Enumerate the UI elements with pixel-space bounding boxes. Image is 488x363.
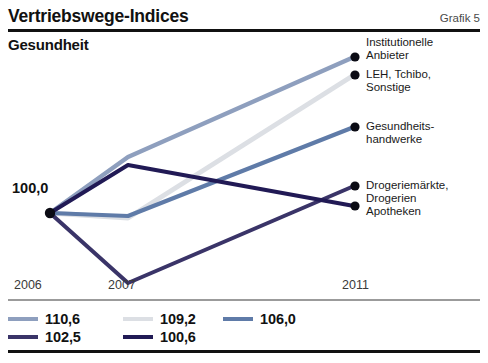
legend-value-106-0: 106,0 xyxy=(260,311,296,327)
x-axis-line xyxy=(8,299,480,301)
series-label-apotheken: Apotheken xyxy=(366,205,421,218)
legend-item-102-5: 102,5 xyxy=(8,329,123,345)
series-line-institutionelle-anbieter xyxy=(50,57,354,213)
legend-swatch-gesundheitshandwerke xyxy=(223,317,253,321)
legend-swatch-leh-tchibo-sonstige xyxy=(123,317,153,321)
x-axis-tick-2011: 2011 xyxy=(342,278,369,292)
chart-page: Vertriebswege-Indices Grafik 5 Gesundhei… xyxy=(0,0,488,363)
legend-item-110-6: 110,6 xyxy=(8,311,123,327)
series-label-gesundheitshandwerke: Gesundheits- handwerke xyxy=(366,120,434,145)
legend-swatch-apotheken xyxy=(123,335,153,339)
data-point-institutionelle-anbieter-2011 xyxy=(350,52,359,61)
data-point-gesundheitshandwerke-2011 xyxy=(350,122,359,131)
legend-value-110-6: 110,6 xyxy=(45,311,80,327)
series-line-drogeriemaerkte-drogerien xyxy=(50,186,354,283)
legend-item-106-0: 106,0 xyxy=(223,311,296,327)
legend-row-2: 102,5 100,6 xyxy=(8,328,480,346)
legend-swatch-drogeriemaerkte-drogerien xyxy=(8,335,38,339)
series-label-leh-tchibo-sonstige: LEH, Tchibo, Sonstige xyxy=(366,68,431,93)
legend-item-109-2: 109,2 xyxy=(123,311,223,327)
data-point-apotheken-2011 xyxy=(350,201,359,210)
footer-divider xyxy=(8,350,480,353)
legend-row-1: 110,6 109,2 106,0 xyxy=(8,310,480,328)
data-point-leh-tchibo-sonstige-2011 xyxy=(350,70,359,79)
x-axis-tick-2007: 2007 xyxy=(108,278,136,292)
x-axis-tick-2006: 2006 xyxy=(14,278,42,292)
data-point-drogeriemaerkte-2011 xyxy=(350,181,359,190)
series-label-drogeriemaerkte-drogerien: Drogeriemärkte, Drogerien xyxy=(366,179,448,204)
data-point-origin xyxy=(45,208,55,218)
legend-item-100-6: 100,6 xyxy=(123,329,196,345)
legend-swatch-institutionelle-anbieter xyxy=(8,317,38,321)
legend-value-102-5: 102,5 xyxy=(45,329,81,345)
series-label-institutionelle-anbieter: Institutionelle Anbieter xyxy=(366,36,433,61)
baseline-value-label: 100,0 xyxy=(12,180,48,196)
legend-value-109-2: 109,2 xyxy=(160,311,196,327)
chart-legend: 110,6 109,2 106,0 102,5 100,6 xyxy=(8,310,480,346)
legend-value-100-6: 100,6 xyxy=(160,329,196,345)
